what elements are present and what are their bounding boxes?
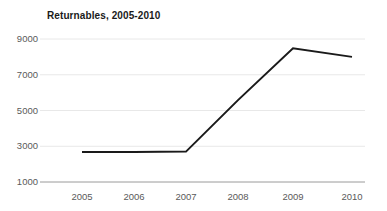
chart-container: Returnables, 2005-2010 10003000500070009…	[0, 0, 387, 211]
data-series-group	[82, 48, 352, 152]
series-line	[82, 48, 352, 152]
gridlines-group	[47, 39, 365, 146]
chart-plot-area	[0, 0, 387, 211]
